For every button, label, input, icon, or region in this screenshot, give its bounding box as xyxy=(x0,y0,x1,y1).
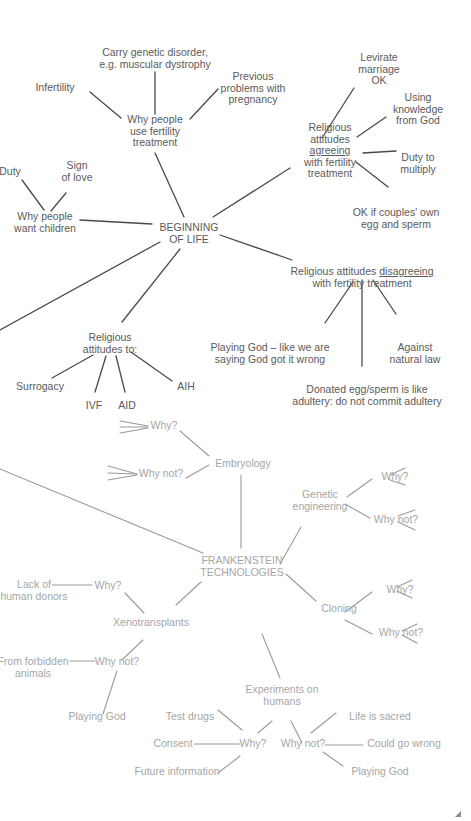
label-line: engineering xyxy=(293,501,348,513)
node-sign-of-love: Signof love xyxy=(62,160,93,183)
label-line: Xenotransplants xyxy=(113,617,189,629)
connector-line xyxy=(186,465,209,478)
connector-line xyxy=(155,153,184,217)
node-lack-of-human-donors: Lack ofhuman donors xyxy=(0,579,67,602)
label-line: AIH xyxy=(177,381,195,393)
node-religious-disagreeing: Religious attitudes disagreeingwith fert… xyxy=(290,266,433,289)
connector-line xyxy=(220,235,292,260)
label-line: Lack of xyxy=(0,579,67,591)
connector-line xyxy=(311,713,336,733)
connector-line xyxy=(323,752,343,766)
label-line: Experiments on xyxy=(246,684,319,696)
connector-line xyxy=(258,721,272,733)
label-line: Religious xyxy=(83,332,137,344)
label-line: Playing God xyxy=(68,711,125,723)
label-line: Duty xyxy=(0,166,21,178)
node-aid: AID xyxy=(118,400,136,412)
label-line: pregnancy xyxy=(221,94,286,106)
connector-line xyxy=(90,92,121,118)
label-line: Using xyxy=(393,92,443,104)
node-frankenstein-technologies: FRANKENSTEINTECHNOLOGIES xyxy=(200,555,283,578)
connector-line xyxy=(108,475,137,480)
node-surrogacy: Surrogacy xyxy=(16,381,64,393)
connector-line xyxy=(95,356,106,392)
node-previous-problems-pregnancy: Previousproblems withpregnancy xyxy=(221,71,286,106)
node-xeno-playing-god: Playing God xyxy=(68,711,125,723)
label-line: OF LIFE xyxy=(160,234,219,246)
node-experiments-playing-god: Playing God xyxy=(351,766,408,778)
node-could-go-wrong: Could go wrong xyxy=(367,738,441,750)
label-line: natural law xyxy=(390,354,441,366)
node-xenotransplants: Xenotransplants xyxy=(113,617,189,629)
node-using-knowledge-from-god: Usingknowledgefrom God xyxy=(393,92,443,127)
label-line: with fertility treatment xyxy=(290,278,433,290)
node-levirate-marriage: LeviratemarriageOK xyxy=(358,52,399,87)
connector-line xyxy=(103,671,117,714)
node-aih: AIH xyxy=(177,381,195,393)
connector-line xyxy=(356,162,388,187)
label-line: Playing God – like we are xyxy=(210,342,329,354)
node-genetic-why-not: Why not? xyxy=(374,514,418,526)
label-line: Why? xyxy=(382,471,409,483)
label-line: Why not? xyxy=(95,656,139,668)
label-line: Previous xyxy=(221,71,286,83)
node-experiments-why: Why? xyxy=(240,738,267,750)
node-experiments-on-humans: Experiments onhumans xyxy=(246,684,319,707)
connector-line xyxy=(262,634,280,678)
connector-line xyxy=(345,504,370,518)
label-line: treatment xyxy=(127,137,182,149)
node-xeno-why: Why? xyxy=(95,580,122,592)
label-line: Why not? xyxy=(379,627,423,639)
node-genetic-why: Why? xyxy=(382,471,409,483)
node-embryology-why: Why? xyxy=(151,420,178,432)
connector-line xyxy=(22,180,44,210)
label-line: Duty to xyxy=(400,152,436,164)
label-line: adultery: do not commit adultery xyxy=(292,396,441,408)
label-line: saying God got it wrong xyxy=(210,354,329,366)
connector-line xyxy=(116,356,125,392)
node-why-use-fertility-treatment: Why peopleuse fertilitytreatment xyxy=(127,114,182,149)
label-line: attitudes to: xyxy=(83,344,137,356)
label-line: Test drugs xyxy=(166,711,214,723)
node-cloning: Cloning xyxy=(321,603,357,615)
node-embryology: Embryology xyxy=(215,458,270,470)
connector-line xyxy=(131,352,172,381)
label-line: Carry genetic disorder, xyxy=(99,47,210,59)
label-line: Future information xyxy=(134,766,219,778)
label-line: OK if couples' own xyxy=(353,207,440,219)
label-line: egg and sperm xyxy=(353,219,440,231)
label-text: Religious attitudes xyxy=(290,265,379,277)
label-line: Could go wrong xyxy=(367,738,441,750)
node-ok-couples-own: OK if couples' ownegg and sperm xyxy=(353,207,440,230)
connector-line xyxy=(120,428,148,433)
label-line: animals xyxy=(0,668,69,680)
connector-line xyxy=(51,193,66,211)
connector-line xyxy=(218,710,242,730)
node-carry-genetic-disorder: Carry genetic disorder,e.g. muscular dys… xyxy=(99,47,210,70)
label-line: Religious xyxy=(304,122,356,134)
connector-line xyxy=(180,431,209,456)
label-line: Playing God xyxy=(351,766,408,778)
label-line: humans xyxy=(246,696,319,708)
connector-line xyxy=(363,151,396,153)
label-line: agreeing xyxy=(304,145,356,157)
label-line: Life is sacred xyxy=(349,711,411,723)
connector-line xyxy=(176,582,201,605)
node-future-information: Future information xyxy=(134,766,219,778)
label-line: multiply xyxy=(400,164,436,176)
label-line: AID xyxy=(118,400,136,412)
node-xeno-why-not: Why not? xyxy=(95,656,139,668)
label-text-underlined: disagreeing xyxy=(379,265,433,277)
label-line: want children xyxy=(14,223,76,235)
label-line: Why not? xyxy=(139,468,183,480)
label-line: IVF xyxy=(86,400,102,412)
connector-line xyxy=(122,249,180,322)
connector-line xyxy=(125,593,144,613)
node-genetic-engineering: Geneticengineering xyxy=(293,489,348,512)
node-infertility: Infertility xyxy=(35,82,74,94)
node-life-is-sacred: Life is sacred xyxy=(349,711,411,723)
label-line: Why not? xyxy=(281,738,325,750)
node-cloning-why: Why? xyxy=(387,584,414,596)
label-line: of love xyxy=(62,172,93,184)
label-line: treatment xyxy=(304,168,356,180)
